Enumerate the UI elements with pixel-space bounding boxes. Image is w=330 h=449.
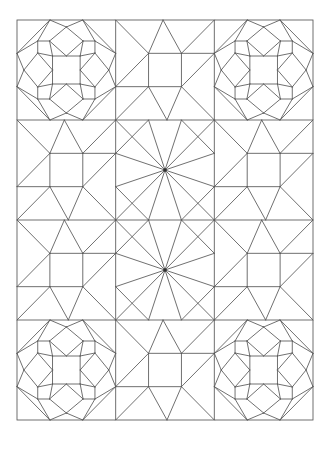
burst-center-dot (163, 168, 166, 171)
burst-center-dot (163, 268, 166, 271)
page-background (0, 0, 330, 449)
coloring-page (0, 0, 330, 449)
quilt-pattern-figure (0, 0, 330, 449)
pattern-svg (0, 0, 330, 449)
